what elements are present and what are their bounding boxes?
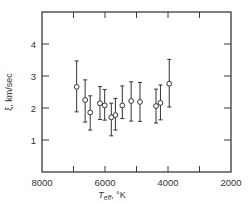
open-circle-marker bbox=[83, 98, 88, 103]
open-circle-marker bbox=[120, 103, 125, 108]
data-point bbox=[83, 80, 88, 122]
y-tick-label: 3 bbox=[31, 71, 36, 82]
data-point bbox=[98, 87, 103, 120]
data-point bbox=[102, 89, 107, 120]
chart: 8000600040002000 1234 Teff, °K ξ, km/sec bbox=[0, 0, 252, 204]
x-tick-label: 4000 bbox=[157, 177, 178, 188]
data-point bbox=[120, 86, 125, 119]
data-point bbox=[109, 103, 114, 136]
x-axis-label: Teff, °K bbox=[98, 190, 125, 201]
x-tick-label: 6000 bbox=[94, 177, 115, 188]
x-tick-label: 8000 bbox=[31, 177, 52, 188]
data-point bbox=[88, 96, 93, 130]
data-points bbox=[74, 59, 171, 135]
data-point bbox=[138, 82, 143, 121]
x-tick-label: 2000 bbox=[220, 177, 241, 188]
open-circle-marker bbox=[129, 99, 134, 104]
x-axis-label-unit: , °K bbox=[111, 190, 126, 200]
open-circle-marker bbox=[98, 101, 103, 106]
axis-ticks bbox=[42, 12, 231, 172]
x-tick-labels: 8000600040002000 bbox=[31, 177, 241, 188]
y-axis-label: ξ, km/sec bbox=[4, 73, 14, 111]
y-tick-label: 4 bbox=[31, 39, 36, 50]
open-circle-marker bbox=[167, 81, 172, 86]
data-point bbox=[113, 98, 118, 130]
data-point bbox=[129, 82, 134, 121]
open-circle-marker bbox=[138, 100, 143, 105]
open-circle-marker bbox=[113, 113, 118, 118]
open-circle-marker bbox=[158, 100, 163, 105]
data-point bbox=[154, 89, 159, 123]
data-point bbox=[74, 61, 79, 112]
data-point bbox=[158, 85, 163, 120]
open-circle-marker bbox=[154, 104, 159, 109]
open-circle-marker bbox=[74, 84, 79, 89]
plot-frame bbox=[42, 12, 231, 172]
y-tick-label: 1 bbox=[31, 135, 36, 146]
plot-border bbox=[42, 12, 231, 172]
y-tick-label: 2 bbox=[31, 103, 36, 114]
y-tick-labels: 1234 bbox=[31, 39, 36, 146]
open-circle-marker bbox=[88, 110, 93, 115]
open-circle-marker bbox=[102, 103, 107, 108]
data-point bbox=[167, 59, 172, 107]
